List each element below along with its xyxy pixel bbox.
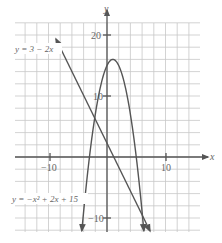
line-equation-label: y = 3 − 2x bbox=[14, 44, 53, 54]
y-tick-label-20: 20 bbox=[91, 30, 101, 41]
x-axis-label: x bbox=[209, 151, 215, 162]
y-axis-label: y bbox=[103, 3, 109, 14]
parabola-equation-label: y = −x² + 2x + 15 bbox=[11, 194, 78, 204]
x-tick-label-10: 10 bbox=[161, 162, 171, 173]
y-tick-label-neg10: −10 bbox=[88, 213, 104, 224]
x-tick-label-neg10: −10 bbox=[41, 162, 57, 173]
coordinate-graph: −10 10 20 10 −10 x y y = 3 − 2x y = −x² … bbox=[0, 0, 222, 243]
